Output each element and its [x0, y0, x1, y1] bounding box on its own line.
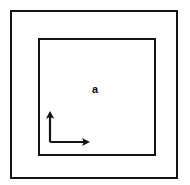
region-label-a: a	[92, 83, 99, 95]
diagram-svg: a	[0, 0, 190, 185]
inner-frame-rect	[39, 39, 155, 155]
diagram-canvas: a	[0, 0, 190, 185]
